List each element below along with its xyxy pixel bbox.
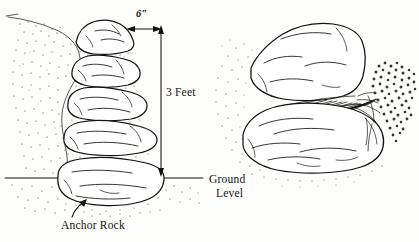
anchor-rock-label: Anchor Rock — [61, 219, 125, 231]
soil-stipple-left — [12, 21, 71, 173]
height-dimension — [158, 25, 164, 177]
right-figure-group: Ground Level — [209, 23, 416, 199]
rock-placement-diagram: Anchor rock and stacked rock wall cross-… — [0, 0, 419, 242]
wall-rock-second — [72, 55, 140, 87]
wall-rock-top — [76, 20, 134, 54]
anchor-rock — [58, 158, 164, 206]
soil-slope — [6, 14, 80, 178]
wall-rock-third — [68, 87, 147, 121]
height-dimension-label: 3 Feet — [166, 86, 196, 98]
outcrop-rock-lower — [243, 103, 384, 173]
setback-dimension — [126, 26, 162, 32]
outcrop-rock-upper — [251, 23, 365, 100]
ground-level-label-line2: Level — [216, 187, 243, 199]
wall-rock-fourth — [64, 121, 157, 156]
ground-level-label-line1: Ground — [209, 173, 245, 185]
left-figure-group: 6″ 3 Feet Anchor Rock — [5, 8, 203, 231]
diagram-canvas: Anchor rock and stacked rock wall cross-… — [0, 0, 419, 242]
setback-dimension-label: 6″ — [136, 8, 147, 19]
